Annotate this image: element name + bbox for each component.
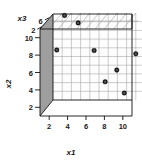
data-point	[93, 49, 95, 51]
x1-tick-label: 8	[102, 122, 106, 131]
x2-axis-title: x2	[4, 79, 13, 89]
floor-face	[40, 100, 132, 116]
data-point	[116, 69, 118, 71]
x2-tick-label: 6	[29, 69, 33, 78]
x1-tick-label: 4	[66, 122, 71, 131]
data-point	[104, 81, 106, 83]
back-wall-face	[53, 14, 132, 100]
data-point	[56, 49, 58, 51]
x2-tick-label: 8	[29, 51, 33, 60]
data-point	[63, 14, 65, 16]
data-point	[135, 53, 137, 55]
x2-tick-label: 10	[25, 34, 33, 43]
x2-tick-label: 4	[29, 86, 34, 95]
x1-axis-title: x1	[66, 148, 76, 157]
x2-axis-tick-labels: 246810	[25, 34, 34, 113]
x1-axis-tick-labels: 246810	[47, 122, 127, 131]
x2-axis-ticks	[35, 38, 40, 108]
data-point	[77, 22, 79, 24]
scatterplot3d-canvas: 246810 246810 26 x1 x2 x3	[0, 0, 142, 165]
x3-axis-title: x3	[17, 14, 27, 23]
x1-tick-label: 2	[47, 122, 51, 131]
data-point	[123, 92, 125, 94]
x2-tick-label: 2	[29, 103, 33, 112]
x1-tick-label: 10	[119, 122, 127, 131]
x3-tick-label: 6	[39, 17, 43, 26]
scatterplot3d-figure: 246810 246810 26 x1 x2 x3	[0, 0, 142, 165]
x1-axis-ticks	[49, 116, 123, 120]
x3-tick-label: 2	[31, 26, 35, 35]
x1-tick-label: 6	[84, 122, 88, 131]
